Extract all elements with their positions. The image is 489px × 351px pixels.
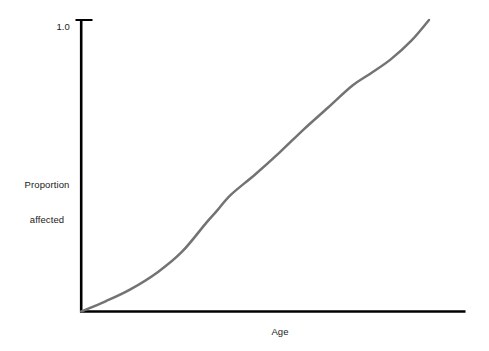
x-axis-label: Age xyxy=(230,326,330,338)
chart-figure: 1.0 Proportion affected Age xyxy=(0,0,489,351)
y-axis-label: Proportion affected xyxy=(4,156,90,248)
y-axis-tick-label-top: 1.0 xyxy=(36,21,70,33)
data-series-line xyxy=(81,20,429,312)
y-axis-label-line-2: affected xyxy=(4,214,90,226)
y-axis-label-line-1: Proportion xyxy=(4,179,90,191)
